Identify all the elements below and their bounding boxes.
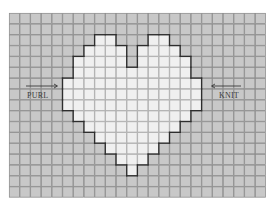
motif-cell bbox=[180, 89, 191, 100]
motif-cell bbox=[116, 154, 127, 165]
motif-cell bbox=[127, 143, 138, 154]
motif-cell bbox=[105, 111, 116, 122]
motif-cell bbox=[127, 100, 138, 111]
motif-cell bbox=[148, 143, 159, 154]
motif-cell bbox=[116, 78, 127, 89]
motif-cell bbox=[180, 78, 191, 89]
motif-cell bbox=[159, 78, 170, 89]
motif-cell bbox=[148, 89, 159, 100]
motif-cell bbox=[116, 100, 127, 111]
motif-cell bbox=[95, 67, 106, 78]
motif-cell bbox=[84, 89, 95, 100]
motif-cell bbox=[84, 46, 95, 57]
motif-cell bbox=[137, 78, 148, 89]
motif-cell bbox=[148, 56, 159, 67]
motif-cell bbox=[116, 143, 127, 154]
motif-cell bbox=[148, 122, 159, 133]
motif-cell bbox=[127, 89, 138, 100]
motif-cell bbox=[73, 78, 84, 89]
motif-cell bbox=[116, 111, 127, 122]
motif-cell bbox=[127, 111, 138, 122]
motif-cell bbox=[148, 35, 159, 46]
motif-cell bbox=[105, 143, 116, 154]
motif-cell bbox=[127, 122, 138, 133]
motif-cell bbox=[63, 89, 74, 100]
motif-cell bbox=[95, 89, 106, 100]
motif-cell bbox=[127, 132, 138, 143]
motif-cell bbox=[73, 56, 84, 67]
motif-cell bbox=[137, 132, 148, 143]
motif-cell bbox=[105, 122, 116, 133]
motif-cell bbox=[84, 56, 95, 67]
motif-cell bbox=[95, 46, 106, 57]
motif-cell bbox=[73, 111, 84, 122]
motif-cell bbox=[159, 111, 170, 122]
motif-cell bbox=[84, 78, 95, 89]
motif-cell bbox=[84, 122, 95, 133]
motif-cell bbox=[116, 46, 127, 57]
motif-cell bbox=[105, 100, 116, 111]
motif-cell bbox=[137, 89, 148, 100]
motif-cell bbox=[148, 46, 159, 57]
motif-cell bbox=[191, 78, 202, 89]
motif-cell bbox=[170, 46, 181, 57]
motif-cell bbox=[95, 132, 106, 143]
motif-cell bbox=[127, 78, 138, 89]
motif-cell bbox=[180, 67, 191, 78]
motif-cell bbox=[148, 78, 159, 89]
motif-cell bbox=[191, 89, 202, 100]
motif-cell bbox=[137, 56, 148, 67]
motif-cell bbox=[170, 67, 181, 78]
motif-cell bbox=[137, 143, 148, 154]
motif-cell bbox=[170, 111, 181, 122]
motif-cell bbox=[105, 89, 116, 100]
motif-cell bbox=[191, 100, 202, 111]
motif-cell bbox=[95, 35, 106, 46]
motif-cell bbox=[84, 67, 95, 78]
motif-cell bbox=[159, 132, 170, 143]
motif-cell bbox=[170, 89, 181, 100]
motif-cell bbox=[105, 67, 116, 78]
motif-cell bbox=[148, 132, 159, 143]
motif-cell bbox=[159, 100, 170, 111]
motif-cell bbox=[105, 78, 116, 89]
motif-cell bbox=[137, 100, 148, 111]
motif-cell bbox=[73, 100, 84, 111]
motif-cell bbox=[105, 35, 116, 46]
motif-cell bbox=[159, 122, 170, 133]
motif-cell bbox=[170, 100, 181, 111]
motif-cell bbox=[116, 89, 127, 100]
motif-cell bbox=[116, 122, 127, 133]
motif-cell bbox=[170, 56, 181, 67]
motif-cell bbox=[73, 89, 84, 100]
motif-cell bbox=[95, 100, 106, 111]
motif-cell bbox=[95, 122, 106, 133]
motif-cell bbox=[159, 46, 170, 57]
motif-cell bbox=[105, 46, 116, 57]
motif-cell bbox=[137, 111, 148, 122]
motif-cell bbox=[63, 78, 74, 89]
motif-cell bbox=[127, 165, 138, 176]
motif-cell bbox=[84, 100, 95, 111]
knitting-chart: PURL KNIT bbox=[0, 0, 274, 211]
motif-cell bbox=[170, 122, 181, 133]
motif-cell bbox=[159, 89, 170, 100]
motif-cell bbox=[95, 78, 106, 89]
motif-cell bbox=[84, 111, 95, 122]
motif-cell bbox=[116, 56, 127, 67]
knit-label: KNIT bbox=[219, 91, 239, 100]
motif-cell bbox=[148, 100, 159, 111]
motif-cell bbox=[137, 122, 148, 133]
motif-cell bbox=[180, 100, 191, 111]
motif-cell bbox=[127, 67, 138, 78]
motif-cell bbox=[137, 67, 148, 78]
motif-cell bbox=[180, 56, 191, 67]
motif-cell bbox=[116, 67, 127, 78]
motif-cell bbox=[95, 56, 106, 67]
motif-cell bbox=[137, 46, 148, 57]
motif-cell bbox=[159, 56, 170, 67]
motif-cell bbox=[116, 132, 127, 143]
motif-cell bbox=[127, 154, 138, 165]
motif-cell bbox=[148, 111, 159, 122]
motif-cell bbox=[137, 154, 148, 165]
